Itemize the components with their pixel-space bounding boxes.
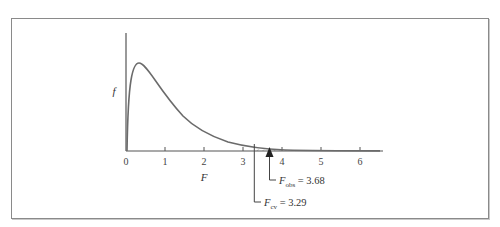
tick-label-6: 6: [358, 156, 363, 167]
tick-label-4: 4: [280, 156, 285, 167]
tick-label-2: 2: [202, 156, 207, 167]
fcv-label: Fcv = 3.29: [263, 197, 307, 211]
fobs-marker-line: [270, 157, 277, 180]
fobs-label: Fobs = 3.68: [278, 175, 325, 189]
tick-label-0: 0: [124, 156, 129, 167]
y-axis-label: f: [112, 85, 117, 97]
fcv-marker-line: [254, 144, 261, 202]
density-curve: [127, 63, 380, 151]
f-distribution-chart: 0 1 2 3 4 5 6 F f Fobs = 3.68 Fcv = 3.29: [0, 0, 500, 227]
x-axis-label: F: [200, 171, 208, 183]
tick-label-3: 3: [241, 156, 246, 167]
tick-label-1: 1: [163, 156, 168, 167]
tick-label-5: 5: [319, 156, 324, 167]
